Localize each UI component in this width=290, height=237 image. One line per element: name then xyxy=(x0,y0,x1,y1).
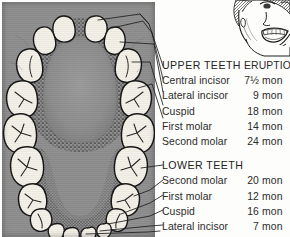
upper-cuspid-label: Cuspid xyxy=(162,104,195,119)
child-face-illustration xyxy=(226,0,290,57)
table-row: First molar 14 mon xyxy=(162,119,290,134)
upper-lateral-incisor-time: 9 mon xyxy=(244,88,290,103)
lower-second-molar-label: Second molar xyxy=(162,173,227,188)
lower-cuspid-time: 16 mon xyxy=(244,204,290,219)
upper-cuspid-time: 18 mon xyxy=(244,104,290,119)
upper-teeth-header: UPPER TEETH xyxy=(162,58,241,73)
table-row: Lateral incisor 9 mon xyxy=(162,88,290,103)
dental-eruption-figure: UPPER TEETH ERUPTIO Central incisor 7½ m… xyxy=(0,0,290,237)
upper-central-incisor-label: Central incisor xyxy=(162,73,230,88)
table-row: Central incisor 6 mon xyxy=(162,234,290,237)
table-row: First molar 12 mon xyxy=(162,189,290,204)
lower-central-incisor-time: 6 mon xyxy=(244,234,290,237)
upper-second-molar-time: 24 mon xyxy=(244,134,290,149)
lower-lateral-incisor-time: 7 mon xyxy=(244,219,290,234)
table-row: Second molar 20 mon xyxy=(162,173,290,188)
upper-first-molar-time: 14 mon xyxy=(244,119,290,134)
eruption-header: ERUPTIO xyxy=(244,58,290,73)
lower-second-molar-time: 20 mon xyxy=(244,173,290,188)
eruption-table: UPPER TEETH ERUPTIO Central incisor 7½ m… xyxy=(162,58,290,237)
lower-header-row: LOWER TEETH xyxy=(162,158,290,173)
table-row: Cuspid 16 mon xyxy=(162,204,290,219)
lower-first-molar-label: First molar xyxy=(162,189,212,204)
lower-central-incisor-label: Central incisor xyxy=(162,234,230,237)
table-row: Lateral incisor 7 mon xyxy=(162,219,290,234)
upper-second-molar-label: Second molar xyxy=(162,134,227,149)
table-row: Cuspid 18 mon xyxy=(162,104,290,119)
upper-central-incisor-time: 7½ mon xyxy=(244,73,290,88)
lower-first-molar-time: 12 mon xyxy=(244,189,290,204)
upper-lateral-incisor-label: Lateral incisor xyxy=(162,88,228,103)
face-drawing xyxy=(226,0,290,57)
upper-first-molar-label: First molar xyxy=(162,119,212,134)
lower-cuspid-label: Cuspid xyxy=(162,204,195,219)
table-row: Second molar 24 mon xyxy=(162,134,290,149)
upper-header-row: UPPER TEETH ERUPTIO xyxy=(162,58,290,73)
section-gap xyxy=(162,149,290,158)
lower-teeth-header: LOWER TEETH xyxy=(162,158,243,173)
table-row: Central incisor 7½ mon xyxy=(162,73,290,88)
lower-lateral-incisor-label: Lateral incisor xyxy=(162,219,228,234)
